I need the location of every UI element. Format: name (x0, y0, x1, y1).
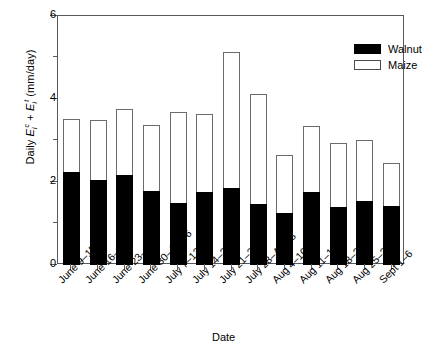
bar-stack (196, 16, 213, 265)
plot-area: Walnut Maize (57, 15, 404, 264)
y-axis-term1-sub: i (31, 127, 38, 129)
y-tick-label-0: 0 (16, 258, 56, 268)
bar-stack (116, 16, 133, 265)
y-axis-title: Daily Eic + Eit (mm/day) (24, 0, 44, 237)
bar-stack (90, 16, 107, 265)
bar-stack (276, 16, 293, 265)
x-axis-title: Date (212, 331, 235, 343)
y-tick-label-4: 4 (16, 92, 56, 102)
bar-stack (143, 16, 160, 265)
y-axis-title-prefix: Daily (24, 137, 36, 165)
y-axis-term1-sup: c (23, 124, 30, 128)
y-axis-term2-base: E (24, 104, 36, 111)
y-tick-label-6: 6 (16, 9, 56, 19)
bar-stack (303, 16, 320, 265)
bar-stack (330, 16, 347, 265)
clipped-caption-ghost (0, 351, 415, 355)
y-axis-term2-sub: i (31, 102, 38, 104)
y-axis-operator: + (24, 111, 36, 124)
legend-swatch-maize-icon (354, 60, 381, 70)
legend-label-maize: Maize (388, 60, 417, 71)
legend-item-maize: Maize (354, 58, 422, 72)
bar-stack (223, 16, 240, 265)
legend-item-walnut: Walnut (354, 42, 422, 56)
bar-stack (250, 16, 267, 265)
legend-label-walnut: Walnut (388, 44, 422, 55)
legend: Walnut Maize (354, 42, 422, 74)
legend-swatch-walnut-icon (354, 44, 381, 54)
y-axis-term1-base: E (24, 129, 36, 136)
y-tick-label-2: 2 (16, 175, 56, 185)
bar-stack (63, 16, 80, 265)
bar-segment-walnut (63, 172, 80, 265)
